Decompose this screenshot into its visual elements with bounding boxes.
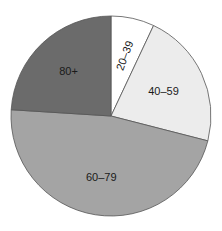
slice-label-40-59: 40–59: [148, 85, 179, 97]
pie-chart: 20–39 40–59 60–79 80+: [0, 0, 222, 231]
slice-label-60-79: 60–79: [86, 171, 117, 183]
slice-label-80-plus: 80+: [59, 65, 78, 77]
pie-slices: [11, 16, 211, 216]
